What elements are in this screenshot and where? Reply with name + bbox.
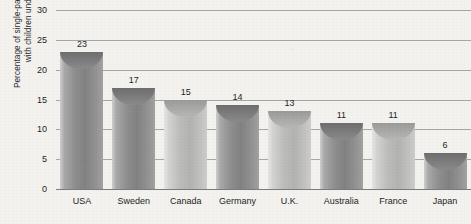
y-tick-label-30: 30 xyxy=(37,5,47,15)
bar-column xyxy=(60,52,103,189)
bar-column xyxy=(424,153,467,189)
bar-column xyxy=(372,123,415,189)
bar-cap-fill xyxy=(112,88,155,105)
bar-cap-fill xyxy=(372,123,415,140)
y-tick-label-15: 15 xyxy=(37,95,47,105)
bar-cap-fill xyxy=(164,100,207,117)
bar-value-label: 17 xyxy=(129,75,139,85)
bar-column xyxy=(216,105,259,189)
bar-top-cap xyxy=(60,52,103,69)
x-tick-label-usa: USA xyxy=(56,196,108,206)
x-axis-tick-labels: USASwedenCanadaGermanyU.K.AustraliaFranc… xyxy=(56,196,471,216)
bar-value-label: 11 xyxy=(337,110,346,120)
bar-column xyxy=(268,111,311,189)
x-tick-label-canada: Canada xyxy=(160,196,212,206)
gridline-0 xyxy=(56,189,471,190)
bar-uk: 13 xyxy=(268,10,311,189)
bar-top-cap xyxy=(424,153,467,170)
bar-chart: Percentage of single-parent families wit… xyxy=(0,0,471,224)
bar-top-cap xyxy=(216,105,259,122)
y-tick-label-25: 25 xyxy=(37,35,47,45)
bar-column xyxy=(320,123,363,189)
bar-france: 11 xyxy=(372,10,415,189)
bar-top-cap xyxy=(112,88,155,105)
y-tick-label-0: 0 xyxy=(42,184,47,194)
plot-area: 231715141311116 xyxy=(56,10,471,189)
bar-cap-fill xyxy=(60,52,103,69)
bar-column xyxy=(112,88,155,189)
x-tick-label-germany: Germany xyxy=(212,196,264,206)
bar-top-cap xyxy=(268,111,311,128)
y-tick-label-5: 5 xyxy=(42,154,47,164)
bar-japan: 6 xyxy=(424,10,467,189)
bar-sweden: 17 xyxy=(112,10,155,189)
bar-top-cap xyxy=(164,100,207,117)
x-tick-label-japan: Japan xyxy=(419,196,471,206)
bar-value-label: 13 xyxy=(284,98,294,108)
bar-fill xyxy=(60,52,103,189)
bar-germany: 14 xyxy=(216,10,259,189)
bar-value-label: 14 xyxy=(233,92,243,102)
bar-value-label: 15 xyxy=(181,87,191,97)
y-tick-label-20: 20 xyxy=(37,65,47,75)
x-tick-label-uk: U.K. xyxy=(264,196,316,206)
bar-value-label: 11 xyxy=(389,110,398,120)
bar-value-label: 23 xyxy=(77,39,87,49)
bar-series: 231715141311116 xyxy=(56,10,471,189)
bar-top-cap xyxy=(372,123,415,140)
x-tick-label-france: France xyxy=(367,196,419,206)
bar-australia: 11 xyxy=(320,10,363,189)
y-axis-tick-labels: 302520151050 xyxy=(0,10,54,189)
bar-cap-fill xyxy=(216,105,259,122)
bar-canada: 15 xyxy=(164,10,207,189)
bar-cap-fill xyxy=(268,111,311,128)
bar-top-cap xyxy=(320,123,363,140)
bar-cap-fill xyxy=(424,153,467,170)
bar-cap-fill xyxy=(320,123,363,140)
bar-usa: 23 xyxy=(60,10,103,189)
y-tick-label-10: 10 xyxy=(37,124,47,134)
x-tick-label-sweden: Sweden xyxy=(108,196,160,206)
bar-column xyxy=(164,100,207,190)
bar-value-label: 6 xyxy=(443,140,448,150)
x-tick-label-australia: Australia xyxy=(315,196,367,206)
